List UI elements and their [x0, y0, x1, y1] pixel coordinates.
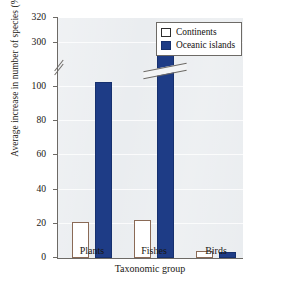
bar-fishes-oceanic-islands[interactable] [157, 37, 174, 258]
y-tick-0: 0 [53, 257, 58, 258]
figure: Average increase in number of species (%… [0, 0, 289, 301]
bar-group-plants [68, 18, 120, 258]
y-tick-label-320: 320 [32, 12, 46, 22]
y-tick-40: 40 [53, 189, 58, 190]
y-tick-label-100: 100 [32, 81, 46, 91]
y-tick-20: 20 [53, 223, 58, 224]
y-tick-60: 60 [53, 154, 58, 155]
x-tick-label-birds: Birds [205, 245, 227, 256]
axis-break-slash-upper [54, 60, 64, 72]
y-tick-80: 80 [53, 120, 58, 121]
legend-label-oceanic-islands: Oceanic islands [176, 41, 235, 50]
legend-item-oceanic-islands[interactable]: Oceanic islands [161, 39, 235, 52]
y-axis-break-icon [51, 58, 66, 73]
y-tick-label-40: 40 [36, 184, 46, 194]
page-bottom-margin [0, 287, 289, 301]
bar-plants-oceanic-islands[interactable] [95, 82, 112, 258]
legend-swatch-oceanic-islands-icon [161, 41, 171, 50]
y-tick-100: 100 [53, 86, 58, 87]
x-tick-label-plants: Plants [80, 245, 104, 256]
y-tick-label-300: 300 [32, 37, 46, 47]
y-axis-title: Average increase in number of species (%… [10, 0, 20, 180]
legend-item-continents[interactable]: Continents [161, 26, 235, 39]
axis-break-slash-lower [54, 64, 64, 76]
y-tick-label-80: 80 [36, 115, 46, 125]
legend-label-continents: Continents [176, 28, 217, 37]
y-tick-300: 300 [53, 42, 58, 43]
legend: Continents Oceanic islands [156, 22, 242, 56]
y-tick-label-0: 0 [41, 252, 46, 262]
x-tick-label-fishes: Fishes [141, 245, 167, 256]
y-tick-320: 320 [53, 17, 58, 18]
x-axis-title: Taxonomic group [57, 263, 243, 274]
y-tick-label-20: 20 [36, 218, 46, 228]
legend-swatch-continents-icon [161, 28, 171, 37]
y-tick-label-60: 60 [36, 150, 46, 160]
